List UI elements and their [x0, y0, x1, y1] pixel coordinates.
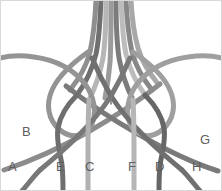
strand-label-c: C — [85, 160, 95, 173]
strand-label-i: I — [108, 91, 111, 100]
strand-label-e: E — [56, 160, 65, 173]
strand-label-a: A — [8, 160, 17, 173]
strand-label-f: F — [128, 160, 136, 173]
strand-c-path — [88, 100, 89, 191]
strand-label-b: B — [22, 125, 31, 138]
braid-diagram-canvas — [0, 0, 222, 191]
strand-label-d: D — [155, 160, 165, 173]
strand-label-g: G — [200, 133, 210, 146]
strand-label-h: H — [192, 160, 202, 173]
braid-figure-frame: A B E C I F D H G — [0, 0, 222, 191]
strand-f-path — [133, 100, 134, 191]
